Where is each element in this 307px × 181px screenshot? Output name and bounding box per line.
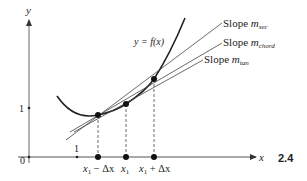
x-tick-marker: [76, 156, 79, 159]
label-tan: Slope mtan: [204, 53, 249, 67]
point-curve-x1-minus: [95, 112, 101, 118]
line-chord: [70, 43, 222, 132]
figure-number: 2.4: [278, 152, 294, 164]
point-axis-x1: [123, 154, 129, 160]
diagram-canvas: y x 0 1 1 y = f(x) Slope msec Slope mcho…: [0, 0, 307, 181]
y-axis-label: y: [25, 4, 31, 16]
origin-marker: [28, 156, 31, 159]
x-axis-label: x: [258, 151, 264, 163]
y-tick-marker: [28, 107, 31, 110]
y-tick-label: 1: [19, 103, 24, 114]
label-x1-plus-dx: x1 + Δx: [138, 163, 171, 176]
point-curve-x1-plus: [151, 76, 157, 82]
label-x1: x1: [120, 163, 130, 176]
point-curve-x1: [123, 101, 129, 107]
curve-f: [57, 18, 185, 116]
label-sec: Slope msec: [223, 17, 269, 31]
label-x1-minus-dx: x1 − Δx: [82, 163, 115, 176]
line-tan: [74, 60, 203, 132]
curve-label: y = f(x): [133, 36, 165, 48]
origin-label: 0: [20, 155, 25, 166]
x-tick-label: 1: [74, 143, 79, 154]
point-axis-x1-plus: [151, 154, 157, 160]
point-axis-x1-minus: [95, 154, 101, 160]
label-chord: Slope mchord: [223, 36, 275, 50]
